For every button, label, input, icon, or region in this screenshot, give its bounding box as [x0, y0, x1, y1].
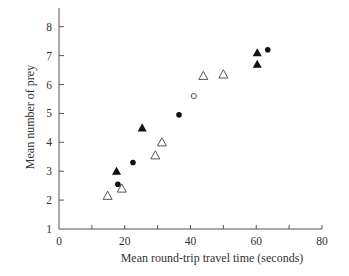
- y-tick-label: 7: [46, 50, 52, 62]
- x-axis-label: Mean round-trip travel time (seconds): [121, 251, 304, 265]
- open-triangle-marker: [157, 138, 166, 146]
- open-triangle-marker: [151, 151, 160, 159]
- open-circle-marker: [191, 93, 196, 98]
- filled-circle-marker: [115, 181, 121, 187]
- y-tick-label: 1: [46, 223, 52, 235]
- x-tick-label: 80: [316, 235, 328, 247]
- y-axis-label: Mean number of prey: [23, 65, 37, 169]
- y-tick-label: 4: [46, 136, 52, 148]
- y-tick-label: 3: [46, 165, 52, 177]
- y-ticks: 12345678: [46, 21, 64, 235]
- open-triangle-marker: [103, 191, 112, 199]
- filled-triangle-marker: [253, 48, 262, 56]
- x-ticks: 020406080: [56, 225, 328, 247]
- filled-circle-marker: [265, 47, 271, 53]
- open-triangle-marker: [219, 70, 228, 78]
- filled-triangle-marker: [112, 167, 121, 175]
- y-tick-label: 5: [46, 107, 52, 119]
- x-tick-label: 60: [251, 235, 263, 247]
- y-tick-label: 8: [46, 21, 52, 33]
- filled-circle-marker: [176, 112, 182, 118]
- data-points: [103, 47, 270, 199]
- y-tick-label: 6: [46, 79, 52, 91]
- x-tick-label: 20: [119, 235, 131, 247]
- filled-triangle-marker: [253, 60, 262, 68]
- scatter-chart: 020406080 12345678 Mean round-trip trave…: [0, 0, 349, 276]
- filled-circle-marker: [130, 160, 136, 166]
- axes: [59, 8, 322, 229]
- open-triangle-marker: [199, 71, 208, 79]
- y-tick-label: 2: [46, 194, 52, 206]
- x-tick-label: 40: [185, 235, 197, 247]
- x-tick-label: 0: [56, 235, 62, 247]
- filled-triangle-marker: [138, 123, 147, 131]
